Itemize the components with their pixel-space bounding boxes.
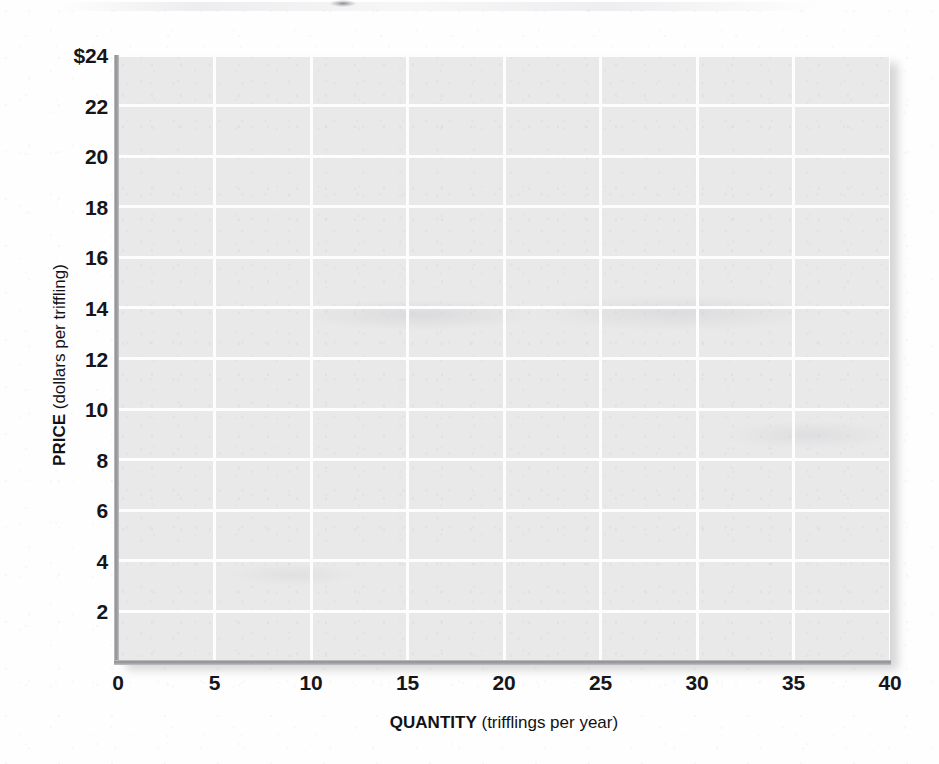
gridline-horizontal — [118, 357, 890, 360]
gridline-horizontal — [118, 458, 890, 461]
y-axis-title: PRICE (dollars per triffling) — [50, 155, 70, 575]
gridline-horizontal — [118, 256, 890, 259]
y-tick-label: 8 — [38, 450, 108, 471]
gridline-horizontal — [118, 205, 890, 208]
gridline-horizontal — [118, 55, 890, 57]
gridline-horizontal — [118, 509, 890, 512]
gridline-horizontal — [118, 104, 890, 107]
x-tick-label: 15 — [378, 672, 438, 693]
scan-streak-artifact — [60, 2, 820, 11]
gridline-horizontal — [118, 408, 890, 411]
scan-smudge-artifact — [330, 0, 356, 7]
x-tick-label: 10 — [281, 672, 341, 693]
y-tick-label: 12 — [38, 349, 108, 370]
x-tick-label: 20 — [474, 672, 534, 693]
figure-canvas: 246810121416182022$24 0510152025303540 P… — [0, 0, 939, 764]
gridline-horizontal — [118, 155, 890, 158]
plot-area[interactable] — [118, 55, 890, 662]
y-tick-label: $24 — [38, 45, 108, 66]
y-tick-label: 16 — [38, 247, 108, 268]
x-tick-label: 5 — [185, 672, 245, 693]
y-axis-line — [114, 55, 119, 665]
y-axis-title-units: (dollars per triffling) — [50, 264, 69, 409]
x-tick-label: 0 — [88, 672, 148, 693]
gridline-horizontal — [118, 610, 890, 613]
x-tick-label: 40 — [860, 672, 920, 693]
y-tick-label: 14 — [38, 298, 108, 319]
y-axis-title-bold: PRICE — [50, 414, 69, 466]
x-axis-title-bold: QUANTITY — [390, 713, 477, 732]
y-axis-title-spacer — [50, 409, 69, 414]
y-tick-label: 4 — [38, 551, 108, 572]
gridline-horizontal — [118, 306, 890, 309]
x-tick-label: 30 — [667, 672, 727, 693]
x-tick-label: 25 — [571, 672, 631, 693]
y-tick-label: 20 — [38, 146, 108, 167]
y-tick-label: 22 — [38, 96, 108, 117]
x-tick-label: 35 — [764, 672, 824, 693]
x-axis-tick-labels: 0510152025303540 — [0, 672, 939, 702]
y-tick-label: 18 — [38, 197, 108, 218]
y-tick-label: 2 — [38, 601, 108, 622]
x-axis-line — [114, 660, 891, 665]
y-tick-label: 6 — [38, 500, 108, 521]
x-axis-title-units: (trifflings per year) — [481, 713, 618, 732]
x-axis-title: QUANTITY (trifflings per year) — [118, 713, 890, 733]
gridline-horizontal — [118, 559, 890, 562]
y-tick-label: 10 — [38, 399, 108, 420]
